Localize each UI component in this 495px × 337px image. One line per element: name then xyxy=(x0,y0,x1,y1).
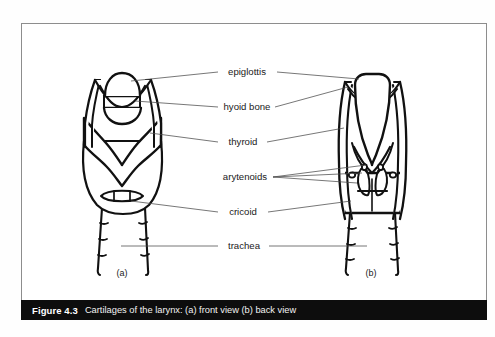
larynx-diagram: (a) xyxy=(21,23,487,301)
label-thyroid: thyroid xyxy=(229,136,258,147)
front-view-sublabel: (a) xyxy=(117,268,128,278)
label-cricoid: cricoid xyxy=(229,206,257,217)
front-view-drawing: (a) xyxy=(83,73,162,278)
label-arytenoids: arytenoids xyxy=(223,171,267,182)
label-hyoid-bone: hyoid bone xyxy=(224,101,271,112)
back-view-drawing: (b) xyxy=(339,74,407,278)
label-trachea: trachea xyxy=(228,240,261,251)
front-cricothyroid-oval xyxy=(101,191,143,202)
leader-hyoid-right xyxy=(275,87,348,107)
leader-cricoid-right xyxy=(268,201,351,212)
figure-number: Figure 4.3 xyxy=(32,305,78,316)
back-view-sublabel: (b) xyxy=(366,268,377,278)
leader-thyroid-right xyxy=(267,128,344,142)
label-group: epiglottis hyoid bone thyroid arytenoids… xyxy=(223,66,271,251)
back-trachea xyxy=(346,213,399,275)
label-epiglottis: epiglottis xyxy=(228,66,266,77)
leader-epiglottis-left xyxy=(131,72,218,81)
leader-epiglottis-right xyxy=(277,72,359,79)
front-trachea xyxy=(98,208,149,275)
figure-caption-bar: Figure 4.3 Cartilages of the larynx: (a)… xyxy=(21,300,487,320)
figure-caption-text: Cartilages of the larynx: (a) front view… xyxy=(85,305,296,315)
leader-hyoid-left xyxy=(135,101,218,107)
